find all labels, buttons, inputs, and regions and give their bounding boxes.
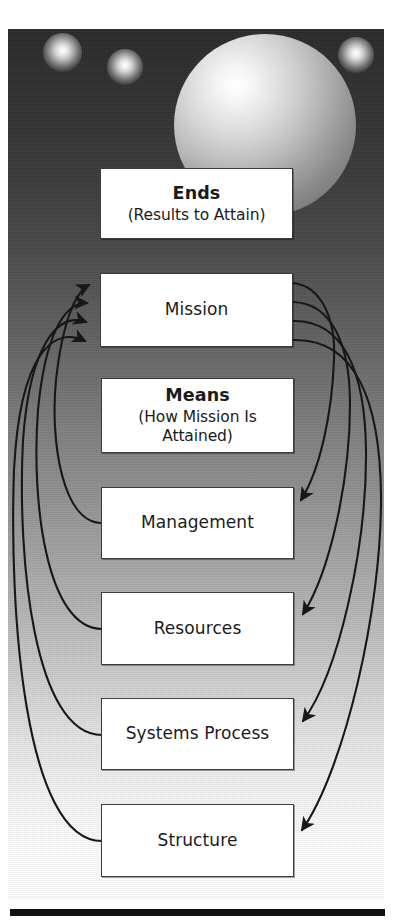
node-systems-process[interactable]: Systems Process: [101, 698, 294, 770]
node-mission[interactable]: Mission: [100, 273, 293, 347]
node-means[interactable]: Means (How Mission Is Attained): [101, 378, 294, 453]
node-means-subtitle: (How Mission Is Attained): [102, 408, 293, 445]
diagram-canvas: Ends (Results to Attain) Mission Means (…: [0, 0, 403, 923]
node-structure-title: Structure: [158, 831, 238, 851]
node-resources[interactable]: Resources: [101, 592, 294, 665]
small-sphere-1: [43, 33, 82, 72]
horizontal-rule: [10, 909, 385, 916]
node-structure[interactable]: Structure: [101, 804, 294, 877]
node-ends[interactable]: Ends (Results to Attain): [100, 168, 293, 239]
node-systems-process-title: Systems Process: [126, 724, 270, 744]
node-means-title: Means: [165, 385, 229, 405]
node-management[interactable]: Management: [101, 487, 294, 559]
small-sphere-3: [338, 37, 374, 73]
node-ends-title: Ends: [173, 183, 221, 203]
node-management-title: Management: [141, 513, 254, 533]
node-resources-title: Resources: [154, 619, 242, 639]
node-ends-subtitle: (Results to Attain): [128, 206, 266, 225]
node-mission-title: Mission: [165, 300, 229, 320]
small-sphere-2: [107, 49, 143, 85]
